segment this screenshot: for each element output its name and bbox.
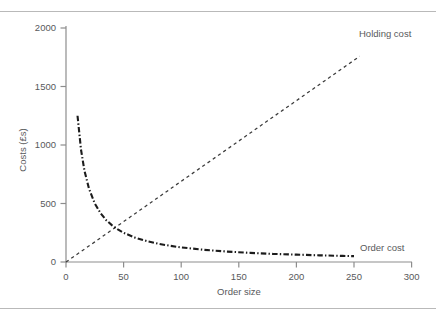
bottom-divider-rule [0, 308, 436, 309]
chart-canvas: 0500100015002000 050100150200250300 Cost… [0, 0, 436, 313]
series-line-order-cost [78, 116, 354, 256]
x-axis-title: Order size [217, 286, 261, 297]
y-axis-title: Costs (£s) [17, 128, 28, 171]
x-tick-label: 50 [118, 271, 129, 282]
x-tick-label: 100 [173, 271, 189, 282]
series-line-holding-cost [66, 56, 360, 262]
x-tick-label: 250 [346, 271, 362, 282]
top-divider-rule [0, 11, 436, 12]
y-axis-ticks [61, 28, 67, 262]
eoq-cost-chart-figure: 0500100015002000 050100150200250300 Cost… [0, 0, 436, 313]
data-series-group [66, 56, 360, 262]
x-tick-label: 200 [288, 271, 304, 282]
axis-lines [66, 26, 412, 262]
x-tick-label: 150 [231, 271, 247, 282]
y-tick-label: 500 [40, 198, 56, 209]
x-tick-label: 300 [404, 271, 420, 282]
series-label-holding-cost: Holding cost [359, 28, 412, 39]
x-axis-tick-labels: 050100150200250300 [63, 271, 419, 282]
y-axis-tick-labels: 0500100015002000 [35, 22, 56, 267]
x-tick-label: 0 [63, 271, 68, 282]
series-label-order-cost: Order cost [360, 242, 405, 253]
y-tick-label: 0 [51, 256, 56, 267]
y-tick-label: 1000 [35, 139, 56, 150]
y-tick-label: 1500 [35, 81, 56, 92]
y-tick-label: 2000 [35, 22, 56, 33]
x-axis-ticks [66, 262, 412, 268]
